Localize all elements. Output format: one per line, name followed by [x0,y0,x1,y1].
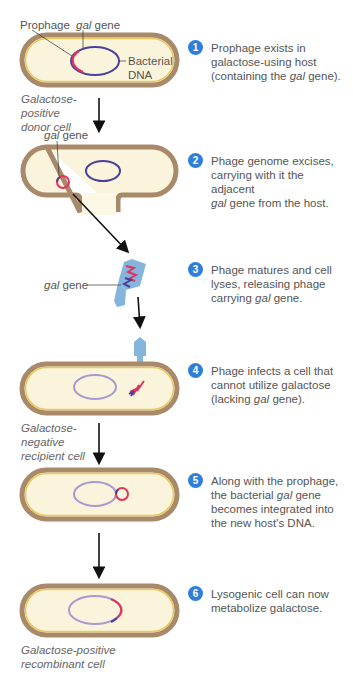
step-badge: 4 [188,363,203,378]
step-text: Prophage exists ingalactose-using host(c… [211,41,350,83]
arrow-3 [138,297,140,326]
step-text: Lysogenic cell can nowmetabolize galacto… [211,587,350,615]
step-text: Along with the prophage,the bacterial ga… [211,474,350,530]
step-1: 1 Prophage exists ingalactose-using host… [190,41,350,83]
bacterial-dna-label: BacterialDNA [128,54,173,82]
step-5: 5 Along with the prophage,the bacterial … [190,474,350,530]
integrating-cell [22,470,177,519]
recombinant-cell-caption: Galactose-positiverecombinant cell [21,643,116,671]
gal-gene-label: gal gene [76,18,120,32]
recipient-cell-caption: Galactose-negativerecipient cell [21,421,85,463]
step-badge: 6 [188,586,203,601]
step-badge: 1 [188,40,203,55]
gal-gene-label-3: gal gene [44,278,88,292]
gal-gene-label-2: gal gene [44,128,88,142]
transducing-phage [87,259,146,307]
step-text: Phage genome excises,carrying with it th… [211,154,350,210]
step-2: 2 Phage genome excises,carrying with it … [190,154,350,210]
step-text: Phage infects a cell thatcannot utilize … [211,364,350,406]
step-badge: 5 [188,473,203,488]
step-3: 3 Phage matures and celllyses, releasing… [190,263,350,305]
recipient-cell [22,337,177,413]
prophage-label: Prophage [20,18,70,32]
recombinant-cell [22,586,177,635]
lysing-cell [23,141,176,215]
step-4: 4 Phage infects a cell thatcannot utiliz… [190,364,350,406]
step-badge: 3 [188,262,203,277]
step-text: Phage matures and celllyses, releasing p… [211,263,350,305]
step-badge: 2 [188,153,203,168]
step-6: 6 Lysogenic cell can nowmetabolize galac… [190,587,350,615]
